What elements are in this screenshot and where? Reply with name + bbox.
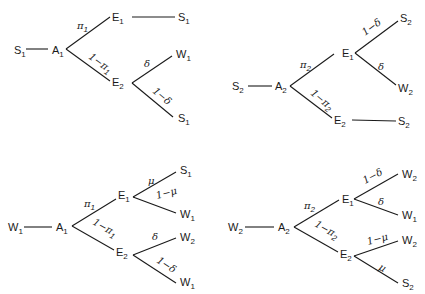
event-node-e1: E1 bbox=[342, 47, 354, 62]
leaf-node: S1 bbox=[178, 11, 190, 26]
event-node-e2: E2 bbox=[334, 114, 346, 129]
leaf-node: W2 bbox=[398, 82, 413, 97]
event-node-e1: E1 bbox=[112, 11, 124, 26]
action-node: A1 bbox=[52, 44, 64, 59]
edge-label-lower: 1−π2 bbox=[307, 87, 336, 115]
event-node-e1: E1 bbox=[342, 193, 354, 208]
edge-a-e1 bbox=[290, 54, 334, 86]
leaf-node: W2 bbox=[402, 168, 417, 183]
leaf-node: S1 bbox=[180, 164, 192, 179]
event-node-e1: E1 bbox=[118, 189, 130, 204]
event-node-e2: E2 bbox=[112, 76, 124, 91]
root-node: W1 bbox=[8, 221, 23, 236]
edge-label-upper: π2 bbox=[299, 59, 312, 73]
edge-e2-leaf bbox=[352, 120, 396, 121]
tree-bottom-left: W1 A1 π1 1−π1 E1 μ S1 1−μ W1 E2 δ W2 1−δ… bbox=[8, 164, 195, 291]
edge-label: δ bbox=[378, 196, 384, 207]
leaf-node: W1 bbox=[176, 48, 191, 63]
action-node: A1 bbox=[56, 221, 68, 236]
leaf-node: W1 bbox=[180, 276, 195, 291]
leaf-node: S2 bbox=[398, 115, 410, 130]
edge-e1-leaf-2 bbox=[133, 197, 176, 213]
edge-label: 1−μ bbox=[366, 231, 389, 247]
edge-e1-leaf-2 bbox=[354, 199, 398, 215]
probability-tree-figure: S1 A1 π1 1−π1 E1 S1 E2 δ W1 1−δ S1 S2 A2… bbox=[0, 0, 425, 294]
edge-e2-leaf-2 bbox=[354, 256, 398, 283]
tree-top-left: S1 A1 π1 1−π1 E1 S1 E2 δ W1 1−δ S1 bbox=[14, 11, 191, 127]
edge-label: 1−δ bbox=[151, 85, 174, 107]
root-node: W2 bbox=[228, 221, 243, 236]
edge-label: μ bbox=[377, 261, 388, 274]
edge-label: 1−δ bbox=[361, 166, 384, 185]
tree-top-right: S2 A2 π2 1−π2 E1 1−δ S2 δ W2 E2 S2 bbox=[232, 12, 413, 130]
edge-e1-leaf-2 bbox=[355, 53, 396, 85]
edge-label-lower: 1−π1 bbox=[90, 216, 119, 241]
root-node: S2 bbox=[232, 80, 244, 95]
leaf-node: S2 bbox=[400, 12, 412, 27]
action-node: A2 bbox=[275, 80, 287, 95]
leaf-node: W1 bbox=[402, 209, 417, 224]
edge-label: δ bbox=[152, 231, 158, 242]
event-node-e2: E2 bbox=[116, 246, 128, 261]
leaf-node: W2 bbox=[402, 234, 417, 249]
action-node: A2 bbox=[278, 221, 290, 236]
edge-e2-leaf-1 bbox=[132, 56, 172, 83]
leaf-node: S1 bbox=[178, 112, 190, 127]
leaf-node: W1 bbox=[180, 208, 195, 223]
leaf-node: W2 bbox=[180, 231, 195, 246]
root-node: S1 bbox=[14, 44, 26, 59]
edge-label-upper: π1 bbox=[83, 198, 95, 212]
edge-label: δ bbox=[378, 61, 384, 72]
edge-label-upper: π1 bbox=[76, 20, 88, 34]
leaf-node: S2 bbox=[402, 277, 414, 292]
edge-label: 1−μ bbox=[155, 185, 178, 201]
edge-label: μ bbox=[148, 175, 155, 186]
edge-label: δ bbox=[144, 58, 150, 69]
event-node-e2: E2 bbox=[340, 248, 352, 263]
tree-bottom-right: W2 A2 π2 1−π2 E1 1−δ W2 δ W1 E2 1−μ W2 μ… bbox=[228, 166, 417, 292]
edge-label-upper: π2 bbox=[303, 200, 316, 214]
